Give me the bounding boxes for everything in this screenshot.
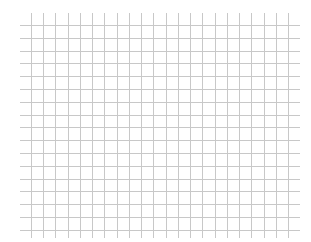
- grid-paper: [0, 0, 311, 242]
- horizontal-grid-lines: [20, 26, 300, 231]
